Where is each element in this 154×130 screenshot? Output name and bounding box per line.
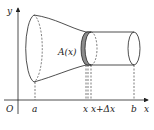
- slice-back-dashed: [91, 32, 97, 65]
- y-axis-label: y: [6, 6, 13, 16]
- cross-section-label: A(x): [57, 47, 77, 57]
- top-profile-curve: [34, 15, 86, 32]
- tick-label-b: b: [131, 104, 137, 114]
- tick-label-x-plus-dx: x+Δx: [91, 104, 115, 114]
- right-end-ellipse: [128, 32, 140, 65]
- tick-label-a: a: [32, 104, 37, 114]
- cross-section-slice: [81, 32, 91, 65]
- left-ellipse-front: [26, 15, 34, 82]
- left-ellipse-back: [34, 15, 42, 82]
- solid-of-revolution-diagram: y x O A(x) a x x+Δx b: [0, 0, 154, 130]
- origin-label: O: [6, 104, 14, 114]
- bottom-profile-curve: [34, 65, 86, 82]
- x-axis-label: x: [144, 104, 149, 114]
- tick-label-x: x: [83, 104, 88, 114]
